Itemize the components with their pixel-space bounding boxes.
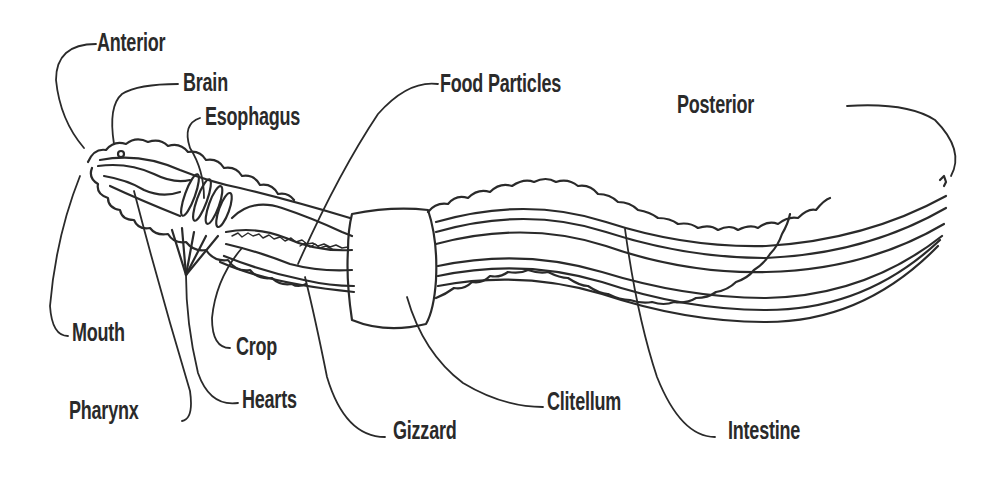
label-brain: Brain xyxy=(183,70,228,95)
label-clitellum: Clitellum xyxy=(547,389,621,414)
worm-posterior-body xyxy=(428,176,946,322)
leader-esophagus xyxy=(188,118,204,198)
label-pharynx: Pharynx xyxy=(69,398,139,423)
leader-gizzard xyxy=(305,277,385,437)
worm-anterior-body xyxy=(88,139,354,292)
label-food-particles: Food Particles xyxy=(440,71,561,96)
label-mouth: Mouth xyxy=(72,320,125,345)
leader-hearts xyxy=(186,275,238,403)
leader-pharynx xyxy=(134,191,191,421)
label-anterior: Anterior xyxy=(97,30,165,55)
label-posterior: Posterior xyxy=(677,92,754,117)
label-hearts: Hearts xyxy=(242,387,297,412)
leader-brain xyxy=(112,84,178,144)
label-esophagus: Esophagus xyxy=(205,104,300,129)
leader-posterior xyxy=(847,105,955,176)
label-intestine: Intestine xyxy=(728,418,800,443)
leader-mouth xyxy=(50,176,80,336)
leader-intestine xyxy=(625,229,715,437)
earthworm-diagram: Anterior Brain Esophagus Food Particles … xyxy=(0,0,997,477)
leader-anterior xyxy=(56,44,96,148)
leader-clitellum xyxy=(407,297,543,407)
leader-food-particles xyxy=(298,84,438,264)
worm-clitellum xyxy=(348,209,437,328)
label-gizzard: Gizzard xyxy=(393,418,457,443)
label-crop: Crop xyxy=(236,334,277,359)
